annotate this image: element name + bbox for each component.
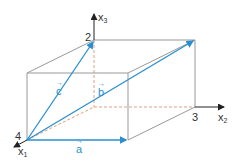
point-label-2: 2 bbox=[85, 32, 91, 43]
vector-label-b: b bbox=[98, 87, 104, 98]
axis-label-x2: x2 bbox=[218, 112, 227, 124]
axes bbox=[14, 14, 224, 147]
vector-label-c: c bbox=[56, 86, 62, 97]
cuboid-diagram bbox=[0, 0, 239, 161]
vectors bbox=[27, 41, 193, 140]
axis-label-x1: x1 bbox=[18, 146, 27, 158]
vector-b bbox=[27, 41, 193, 140]
vector-label-a: a bbox=[76, 144, 82, 155]
point-label-3: 3 bbox=[192, 112, 198, 123]
axis-label-x3: x3 bbox=[98, 12, 107, 24]
point-label-4: 4 bbox=[15, 131, 21, 142]
